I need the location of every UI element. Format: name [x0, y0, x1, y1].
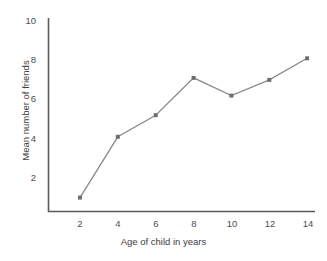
x-tick-label-4: 4	[106, 219, 130, 229]
data-point-10	[229, 94, 233, 98]
y-axis-title: Mean number of friends	[20, 31, 31, 191]
line-chart: 10 8 6 4 2 2 4 6 8 10 12 14 Age of child…	[0, 0, 327, 261]
x-tick-label-2: 2	[68, 219, 92, 229]
y-tick-label-10: 10	[14, 16, 36, 26]
data-point-2	[78, 196, 82, 200]
x-axis-title: Age of child in years	[0, 236, 327, 247]
data-point-12	[267, 78, 271, 82]
x-tick-label-12: 12	[258, 219, 282, 229]
x-tick-label-6: 6	[144, 219, 168, 229]
data-point-4	[116, 135, 120, 139]
data-point-8	[192, 76, 196, 80]
x-tick-label-14: 14	[296, 219, 320, 229]
x-tick-label-8: 8	[182, 219, 206, 229]
x-tick-label-10: 10	[220, 219, 244, 229]
data-point-6	[154, 113, 158, 117]
data-point-14	[305, 56, 309, 60]
data-point-markers	[78, 56, 309, 199]
